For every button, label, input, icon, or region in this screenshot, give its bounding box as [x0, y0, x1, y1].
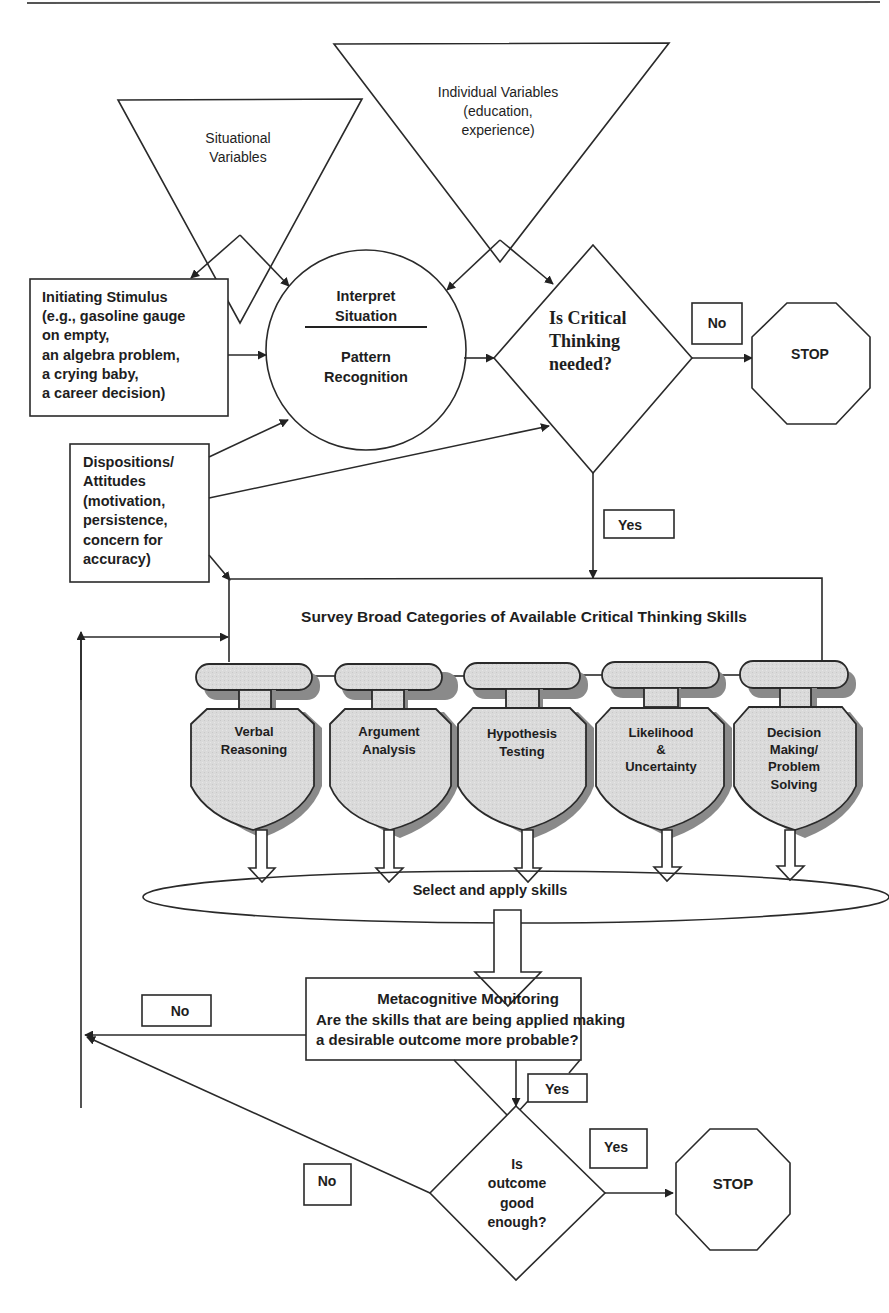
- metacognitive-line-1: Are the skills that are being applied ma…: [316, 1011, 625, 1028]
- stimulus-line-6: a career decision): [42, 385, 165, 401]
- arrow-individual-to-interpret: [447, 240, 500, 290]
- svg-text:Yes: Yes: [545, 1081, 569, 1097]
- pattern-label-2: Recognition: [324, 369, 408, 385]
- svg-text:STOP: STOP: [791, 346, 829, 362]
- decision1-no-label: No: [692, 303, 742, 344]
- skill-4-line-3: Uncertainty: [625, 759, 697, 774]
- stimulus-line-1: Initiating Stimulus: [42, 289, 168, 305]
- hollow-arrow-icon: [376, 830, 403, 882]
- select-apply-label: Select and apply skills: [413, 882, 568, 898]
- decision1-line-3: needed?: [549, 354, 612, 374]
- initiating-stimulus-box: Initiating Stimulus (e.g., gasoline gaug…: [30, 279, 228, 416]
- arrow-dispositions-to-interpret: [209, 420, 288, 457]
- individual-variables-triangle: Individual Variables (education, experie…: [334, 43, 669, 262]
- metacognitive-monitoring-box: Metacognitive Monitoring Are the skills …: [306, 978, 625, 1060]
- dispositions-line-6: accuracy): [83, 551, 151, 567]
- stop-sign-2: STOP: [676, 1129, 790, 1250]
- skill-verbal-reasoning: Verbal Reasoning: [191, 664, 322, 838]
- dispositions-line-2: Attitudes: [83, 473, 146, 489]
- metacognitive-line-2: a desirable outcome more probable?: [316, 1031, 579, 1048]
- dispositions-line-5: concern for: [83, 532, 163, 548]
- dispositions-box: Dispositions/ Attitudes (motivation, per…: [70, 444, 209, 582]
- decision2-line-2: outcome: [488, 1175, 547, 1191]
- skill-2-line-1: Argument: [358, 724, 420, 739]
- stop-sign-1: STOP: [752, 303, 870, 424]
- decision2-yes-label: Yes: [590, 1129, 647, 1168]
- decision1-line-2: Thinking: [549, 331, 620, 351]
- arrow-individual-to-decision: [500, 240, 553, 284]
- pattern-label-1: Pattern: [341, 349, 391, 365]
- critical-thinking-needed-decision: Is Critical Thinking needed?: [494, 245, 692, 473]
- svg-text:No: No: [318, 1173, 337, 1189]
- svg-text:Yes: Yes: [604, 1139, 628, 1155]
- connector-line: [454, 1060, 508, 1116]
- skill-4-line-2: &: [656, 742, 665, 757]
- decision1-yes-label: Yes: [604, 510, 674, 538]
- skill-4-line-1: Likelihood: [629, 725, 694, 740]
- interpret-label-2: Situation: [335, 308, 397, 324]
- skill-3-line-1: Hypothesis: [487, 726, 557, 741]
- skill-5-line-4: Solving: [771, 777, 818, 792]
- page-top-rule: [27, 2, 880, 3]
- decision2-no-label: No: [304, 1164, 351, 1205]
- dispositions-line-4: persistence,: [83, 512, 168, 528]
- skill-2-line-2: Analysis: [362, 742, 415, 757]
- individual-variables-label-2: (education,: [463, 103, 532, 119]
- skill-5-line-3: Problem: [768, 759, 820, 774]
- flowchart-canvas: Situational Variables Individual Variabl…: [0, 0, 889, 1313]
- decision1-line-1: Is Critical: [549, 308, 626, 328]
- arrow-dispositions-to-survey: [209, 555, 230, 580]
- hollow-arrow-icon: [777, 830, 804, 880]
- stimulus-line-4: an algebra problem,: [42, 347, 180, 363]
- metacognitive-no-label: No: [142, 995, 211, 1026]
- svg-text:Yes: Yes: [618, 517, 642, 533]
- connector-line: [569, 1060, 580, 1073]
- decision2-line-3: good: [500, 1195, 534, 1211]
- skill-argument-analysis: Argument Analysis: [330, 664, 458, 838]
- svg-text:STOP: STOP: [713, 1175, 754, 1192]
- dispositions-line-3: (motivation,: [83, 493, 165, 509]
- interpret-label-1: Interpret: [337, 288, 396, 304]
- svg-text:No: No: [708, 315, 727, 331]
- arrow-situational-to-stimulus: [191, 235, 240, 278]
- skill-3-line-2: Testing: [499, 744, 544, 759]
- interpret-situation-circle: Interpret Situation Pattern Recognition: [266, 250, 466, 450]
- stimulus-line-3: on empty,: [42, 327, 109, 343]
- hollow-arrow-icon: [515, 830, 541, 882]
- skill-hypothesis-testing: Hypothesis Testing: [458, 663, 594, 838]
- loop-back-arrow: [81, 637, 228, 1108]
- individual-variables-label-3: experience): [461, 122, 534, 138]
- dispositions-line-1: Dispositions/: [83, 454, 174, 470]
- svg-text:No: No: [171, 1003, 190, 1019]
- situational-variables-label-1: Situational: [205, 130, 270, 146]
- stimulus-line-2: (e.g., gasoline gauge: [42, 308, 185, 324]
- survey-skills-box: Survey Broad Categories of Available Cri…: [229, 578, 822, 662]
- skill-1-line-2: Reasoning: [221, 742, 288, 757]
- outcome-good-enough-decision: Is outcome good enough?: [430, 1106, 605, 1280]
- situational-variables-label-2: Variables: [209, 149, 266, 165]
- skill-decision-making: Decision Making/ Problem Solving: [734, 661, 863, 838]
- skill-likelihood-uncertainty: Likelihood & Uncertainty: [596, 662, 732, 838]
- metacognitive-yes-label: Yes: [528, 1074, 587, 1102]
- stimulus-line-5: a crying baby,: [42, 366, 138, 382]
- survey-title: Survey Broad Categories of Available Cri…: [301, 608, 747, 625]
- individual-variables-label-1: Individual Variables: [438, 84, 558, 100]
- skill-1-line-1: Verbal: [234, 724, 273, 739]
- metacognitive-title: Metacognitive Monitoring: [377, 990, 559, 1007]
- hollow-arrow-icon: [249, 830, 275, 882]
- decision2-line-1: Is: [511, 1156, 523, 1172]
- decision2-line-4: enough?: [487, 1214, 546, 1230]
- skill-5-line-2: Making/: [770, 742, 819, 757]
- skill-5-line-1: Decision: [767, 725, 821, 740]
